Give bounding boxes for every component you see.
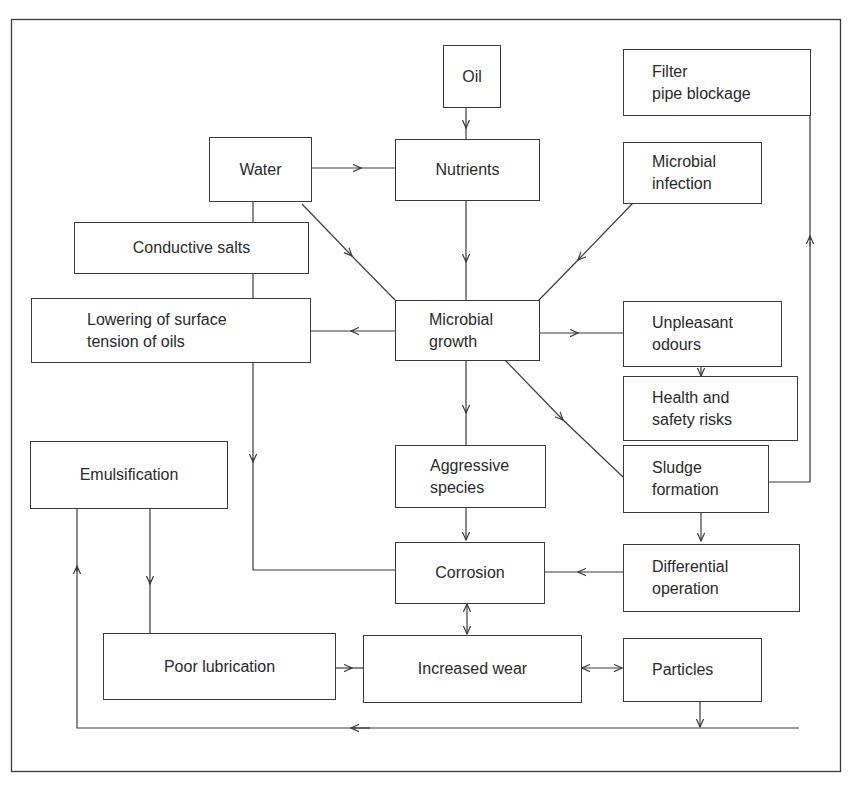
node-particles: Particles bbox=[623, 638, 762, 702]
edge-infection-growth bbox=[578, 203, 633, 260]
node-water: Water bbox=[209, 137, 312, 202]
node-conductive-salts: Conductive salts bbox=[74, 222, 309, 274]
node-increased-wear: Increased wear bbox=[363, 635, 582, 703]
node-lowering-surface-tension: Lowering of surface tension of oils bbox=[31, 298, 311, 363]
edge-growth-sludge bbox=[505, 360, 563, 420]
node-nutrients: Nutrients bbox=[395, 139, 540, 201]
node-sludge-formation: Sludge formation bbox=[623, 445, 769, 513]
edge-water-growth bbox=[302, 204, 352, 256]
node-microbial-infection: Microbial infection bbox=[623, 142, 762, 204]
node-oil: Oil bbox=[443, 45, 501, 108]
node-microbial-growth: Microbial growth bbox=[395, 300, 540, 361]
node-poor-lubrication: Poor lubrication bbox=[103, 633, 336, 700]
node-unpleasant-odours: Unpleasant odours bbox=[623, 301, 782, 367]
node-corrosion: Corrosion bbox=[395, 542, 545, 604]
node-emulsification: Emulsification bbox=[30, 441, 228, 509]
node-filter-pipe-blockage: Filter pipe blockage bbox=[623, 49, 811, 116]
node-aggressive-species: Aggressive species bbox=[395, 445, 546, 508]
node-differential-operation: Differential operation bbox=[623, 544, 800, 612]
node-health-safety-risks: Health and safety risks bbox=[623, 376, 798, 441]
